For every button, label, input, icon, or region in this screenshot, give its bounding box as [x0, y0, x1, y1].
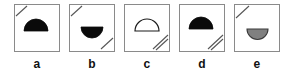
semicircle-bowl-down-black-b: [81, 27, 103, 38]
choice-panel-a[interactable]: a: [13, 4, 61, 71]
shape-choice-figure: a b: [0, 0, 294, 81]
panel-label-a: a: [34, 57, 41, 71]
shape-container-b: [70, 5, 114, 51]
corner-slash-top-left-e: [236, 6, 249, 18]
corner-slash-top-left-a: [16, 6, 27, 16]
choice-panel-b[interactable]: b: [68, 4, 116, 71]
semicircle-dome-up-black-a: [24, 19, 48, 31]
shape-container-c: [125, 5, 169, 51]
shape-container-e: [235, 5, 279, 51]
shape-svg-c: [125, 5, 169, 51]
corner-slash-bottom-right-outer-d: [208, 35, 223, 49]
semicircle-dome-up-black-d: [189, 17, 213, 29]
panel-box-d: [179, 4, 225, 52]
panel-label-e: e: [254, 57, 261, 71]
shape-container-d: [180, 5, 224, 51]
panel-box-a: [14, 4, 60, 52]
panel-label-b: b: [88, 57, 96, 71]
corner-slash-bottom-right-b: [101, 38, 113, 49]
shape-svg-d: [180, 5, 224, 51]
choice-panel-c[interactable]: c: [123, 4, 171, 71]
panel-label-c: c: [144, 57, 151, 71]
corner-slash-top-left-b: [71, 6, 82, 16]
panel-box-c: [124, 4, 170, 52]
choice-panel-e[interactable]: e: [233, 4, 281, 71]
panel-box-e: [234, 4, 280, 52]
choice-panel-d[interactable]: d: [178, 4, 226, 71]
shape-svg-a: [15, 5, 59, 51]
panel-row: a b: [0, 0, 294, 81]
semicircle-bowl-down-gray-e: [247, 29, 268, 40]
panel-label-d: d: [198, 57, 206, 71]
semicircle-dome-up-white-c: [135, 19, 159, 31]
shape-svg-b: [70, 5, 114, 51]
corner-slash-bottom-right-outer-c: [153, 35, 168, 49]
shape-container-a: [15, 5, 59, 51]
panel-box-b: [69, 4, 115, 52]
shape-svg-e: [235, 5, 279, 51]
